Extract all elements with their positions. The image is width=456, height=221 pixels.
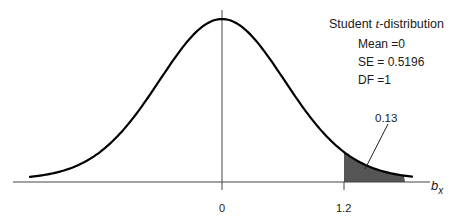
- chart-title: Student t-distribution: [329, 17, 444, 31]
- param-mean: Mean =0: [358, 37, 405, 51]
- title-prefix: Student: [329, 17, 376, 31]
- area-value-label: 0.13: [375, 111, 397, 125]
- x-axis-label: bx: [431, 179, 443, 198]
- tick-label-zero: 0: [219, 201, 225, 215]
- param-se: SE = 0.5196: [358, 55, 424, 69]
- tick-label-cutoff: 1.2: [336, 201, 351, 215]
- density-curve: [30, 19, 412, 177]
- param-df: DF =1: [358, 73, 391, 87]
- area-leader-line: [365, 124, 388, 169]
- title-suffix: -distribution: [379, 17, 444, 31]
- axis-label-sub: x: [438, 185, 443, 196]
- shaded-tail-area: [344, 152, 405, 182]
